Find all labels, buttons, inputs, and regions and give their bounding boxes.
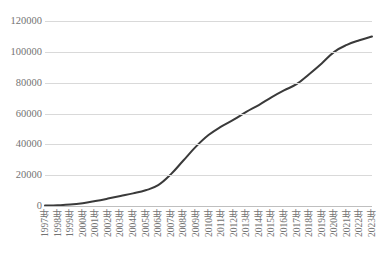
x-tick-label: 2004年: [127, 208, 139, 237]
series-path: [45, 36, 372, 205]
gridline-120000: [45, 21, 372, 22]
x-tick-label: 2021年: [341, 208, 353, 237]
x-tick-label: 2022年: [353, 208, 365, 237]
x-tick-label: 2007年: [165, 208, 177, 237]
x-tick-label: 2009年: [190, 208, 202, 237]
gridline-60000: [45, 114, 372, 115]
gridline-80000: [45, 83, 372, 84]
gridline-100000: [45, 52, 372, 53]
gridline-0: [45, 206, 372, 207]
y-tick-label: 0: [0, 200, 42, 211]
x-tick-label: 2003年: [114, 208, 126, 237]
y-tick-label: 120000: [0, 15, 42, 26]
y-tick-label: 60000: [0, 108, 42, 119]
x-tick-label: 2013年: [240, 208, 252, 237]
x-tick-label: 2015年: [265, 208, 277, 237]
gridline-20000: [45, 175, 372, 176]
gridline-40000: [45, 144, 372, 145]
x-tick-label: 2016年: [278, 208, 290, 237]
x-tick-label: 2011年: [215, 208, 227, 237]
x-tick-label: 2000年: [77, 208, 89, 237]
x-tick-label: 2010年: [203, 208, 215, 237]
y-axis: 020000400006000080000100000120000: [0, 0, 42, 259]
x-tick-label: 2001年: [89, 208, 101, 237]
x-tick-label: 1999年: [64, 208, 76, 237]
x-tick-label: 2002年: [102, 208, 114, 237]
x-tick-label: 2012年: [228, 208, 240, 237]
y-tick-label: 40000: [0, 138, 42, 149]
y-tick-label: 100000: [0, 46, 42, 57]
x-tick-label: 2017年: [291, 208, 303, 237]
x-tick-label: 1997年: [39, 208, 51, 237]
x-tick-label: 2014年: [253, 208, 265, 237]
x-tick-label: 2023年: [366, 208, 378, 237]
y-tick-label: 80000: [0, 77, 42, 88]
x-tick-label: 2020年: [328, 208, 340, 237]
x-axis: 1997年1998年1999年2000年2001年2002年2003年2004年…: [45, 208, 372, 256]
x-tick-label: 2019年: [316, 208, 328, 237]
x-tick-label: 1998年: [52, 208, 64, 237]
x-tick-label: 2006年: [152, 208, 164, 237]
y-tick-label: 20000: [0, 169, 42, 180]
line-chart: 020000400006000080000100000120000 1997年1…: [0, 0, 387, 259]
plot-area: [45, 21, 372, 206]
x-tick-label: 2005年: [140, 208, 152, 237]
x-tick-label: 2008年: [177, 208, 189, 237]
x-tick-label: 2018年: [303, 208, 315, 237]
